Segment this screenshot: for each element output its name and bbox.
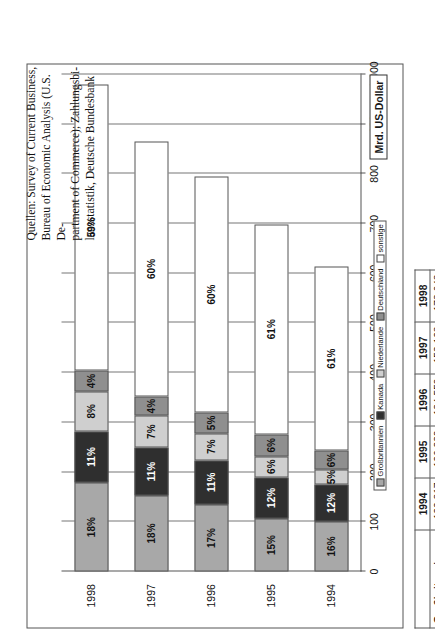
stacked-bar: 15%12%6%6%61%	[254, 74, 288, 571]
x-tick-label: 800	[367, 165, 424, 183]
legend-label: Niederlande	[375, 326, 384, 367]
bar-segment: 12%	[314, 484, 348, 521]
table-cell: 106,332	[430, 426, 435, 478]
bar-segment: 16%	[314, 521, 348, 571]
legend-swatch	[376, 254, 384, 262]
bar-segment-label: 12%	[266, 487, 276, 507]
bar-segment-label: 4%	[86, 373, 96, 387]
bar-segment-label: 6%	[266, 438, 276, 452]
table-cell: 153,108	[430, 322, 435, 374]
bar-segment-label: 17%	[206, 528, 216, 548]
legend-swatch	[376, 411, 384, 419]
source-note: Quellen: Survey of Current Business,Bure…	[24, 54, 98, 240]
figure-canvas: 18%11%8%4%59%18%11%7%4%60%17%11%7%5%60%1…	[0, 0, 435, 642]
table-row-header: Großbritannien	[430, 530, 435, 628]
x-tick	[360, 322, 365, 323]
legend-label: Großbritannien	[375, 425, 384, 476]
bar-segment-label: 7%	[206, 439, 216, 453]
bar-segment: 4%	[134, 396, 168, 415]
table-column-header: 1996	[415, 374, 430, 426]
source-line: lanzstatistik, Deutsche Bundesbank	[83, 54, 98, 240]
bar-segment: 8%	[74, 391, 108, 430]
bar-segment: 17%	[194, 504, 228, 571]
category-label: 1995	[264, 584, 276, 607]
x-tick	[360, 520, 365, 521]
data-table-wrapper: 19941995199619971998 Großbritannien100,8…	[414, 269, 435, 628]
category-label: 1994	[324, 584, 336, 607]
bar-segment: 60%	[194, 176, 228, 412]
bar-segment-label: 6%	[266, 459, 276, 473]
bar-segment-label: 60%	[206, 284, 216, 304]
bar-segment-label: 11%	[206, 472, 216, 491]
bar-segment: 11%	[74, 431, 108, 483]
bar-segment: 5%	[314, 469, 348, 484]
bar-segment: 11%	[134, 447, 168, 495]
category-label: 1996	[204, 584, 216, 607]
table-row: Großbritannien100,817106,332134,559153,1…	[430, 270, 435, 628]
legend-label: Deutschland	[375, 268, 384, 310]
bar-segment-label: 12%	[326, 492, 336, 512]
stacked-bar: 18%11%7%4%60%	[134, 74, 168, 571]
bar-segment: 61%	[314, 266, 348, 449]
x-tick	[360, 73, 365, 74]
bar-segment: 6%	[254, 434, 288, 456]
bar-segment-label: 5%	[206, 415, 216, 429]
legend-label: Kanada	[375, 383, 384, 409]
axis-unit-badge: Mrd. US-Dollar	[369, 74, 387, 159]
bar-segment: 7%	[194, 433, 228, 460]
x-tick	[360, 421, 365, 422]
bar-segment: 11%	[194, 460, 228, 505]
bar-segment-label: 61%	[266, 319, 276, 339]
data-table: 19941995199619971998 Großbritannien100,8…	[414, 269, 435, 628]
table-header-row: 19941995199619971998	[415, 270, 430, 628]
x-tick	[360, 222, 365, 223]
table-cell: 134,559	[430, 374, 435, 426]
bar-segment-label: 60%	[146, 258, 156, 278]
bar-segment-label: 11%	[146, 461, 156, 480]
legend-label: sonstige	[375, 224, 384, 252]
source-line: Bureau of Economic Analysis (U.S. De-	[39, 54, 69, 240]
bar-segment-label: 15%	[266, 535, 276, 555]
bar-segment: 6%	[254, 456, 288, 477]
table-corner-cell	[415, 530, 430, 628]
legend-item: Kanada	[375, 383, 384, 419]
legend-item: Deutschland	[375, 268, 384, 320]
table-column-header: 1997	[415, 322, 430, 374]
rotated-figure: 18%11%8%4%59%18%11%7%4%60%17%11%7%5%60%1…	[0, 0, 435, 642]
x-tick	[360, 272, 365, 273]
legend-item: Niederlande	[375, 326, 384, 377]
bar-segment-label: 61%	[326, 348, 336, 368]
source-line: partment of Commerce); Zahlungsbi-	[68, 54, 83, 240]
bar-segment-label: 7%	[146, 424, 156, 438]
table-body: Großbritannien100,817106,332134,559153,1…	[430, 270, 435, 628]
source-line: Quellen: Survey of Current Business,	[24, 54, 39, 240]
category-label: 1997	[144, 584, 156, 607]
bar-segment: 4%	[74, 370, 108, 391]
x-tick	[360, 172, 365, 173]
bar-segment-label: 18%	[86, 517, 96, 537]
bar-segment-label: 8%	[86, 404, 96, 418]
table-column-header: 1994	[415, 478, 430, 530]
bar-segment: 61%	[254, 224, 288, 434]
x-tick	[360, 123, 365, 124]
bar-segment: 7%	[134, 415, 168, 447]
chart-legend: GroßbritannienKanadaNiederlandeDeutschla…	[373, 220, 386, 490]
x-tick	[360, 371, 365, 372]
table-column-header: 1998	[415, 270, 430, 322]
x-tick	[360, 471, 365, 472]
bar-segment-label: 4%	[146, 398, 156, 412]
bar-segment-label: 18%	[146, 523, 156, 543]
bar-segment: 6%	[314, 450, 348, 469]
bar-segment-label: 5%	[326, 469, 336, 483]
bar-segment: 60%	[134, 141, 168, 396]
bar-segment-label: 11%	[86, 447, 96, 466]
table-column-header: 1995	[415, 426, 430, 478]
legend-swatch	[376, 369, 384, 377]
plot-area: 18%11%8%4%59%18%11%7%4%60%17%11%7%5%60%1…	[61, 74, 361, 571]
category-label: 1998	[84, 584, 96, 607]
legend-item: sonstige	[375, 224, 384, 262]
x-tick	[360, 570, 365, 571]
legend-swatch	[376, 312, 384, 320]
bar-segment: 18%	[74, 482, 108, 571]
bar-segment-label: 6%	[326, 452, 336, 466]
